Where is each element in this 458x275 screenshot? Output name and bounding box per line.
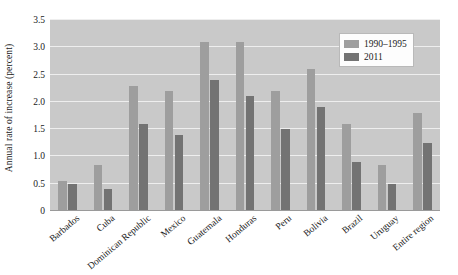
y-axis-tick-label: 2.0: [33, 97, 45, 107]
y-axis-tick-labels: 00.51.01.52.02.53.03.5: [18, 14, 48, 212]
legend: 1990–1995 2011: [339, 33, 414, 67]
bar-group: [413, 20, 432, 211]
bar: [165, 91, 174, 211]
legend-item-label: 1990–1995: [364, 39, 407, 49]
bar: [307, 69, 316, 211]
x-axis-tick-label: Cuba: [95, 213, 117, 234]
bar: [200, 42, 209, 211]
bar-group: [271, 20, 290, 211]
bar: [104, 189, 113, 211]
legend-swatch-icon: [344, 40, 359, 48]
bar: [236, 42, 245, 211]
bar-group: [94, 20, 113, 211]
bar: [129, 86, 138, 212]
y-axis-tick-label: 0.5: [33, 179, 45, 189]
y-axis-tick-label: 0: [40, 206, 45, 216]
bar-chart: Annual rate of increase (percent) 00.51.…: [0, 0, 458, 275]
x-axis-tick-label: Mexico: [159, 213, 188, 239]
bar-group: [58, 20, 77, 211]
y-axis-tick-label: 1.0: [33, 151, 45, 161]
bar: [423, 143, 432, 211]
y-axis-tick-label: 1.5: [33, 124, 45, 134]
bar: [378, 165, 387, 211]
legend-swatch-icon: [344, 53, 359, 61]
x-axis-tick-label: Uruguay: [368, 213, 400, 242]
x-axis-tick-labels: BarbadosCubaDominican RepublicMexicoGuat…: [50, 211, 440, 275]
x-axis-tick-label: Brazil: [341, 213, 365, 236]
bar: [68, 184, 77, 211]
legend-item: 1990–1995: [344, 37, 407, 50]
legend-item: 2011: [344, 50, 407, 63]
bar-group: [236, 20, 255, 211]
bar: [175, 135, 184, 211]
bar: [281, 129, 290, 211]
bar: [342, 124, 351, 211]
bar: [139, 124, 148, 211]
x-axis-tick-label: Guatemala: [185, 213, 223, 247]
bar: [246, 96, 255, 211]
bar-group: [307, 20, 326, 211]
bar: [210, 80, 219, 211]
x-axis-tick-label: Honduras: [224, 213, 259, 244]
bar-group: [129, 20, 148, 211]
bar: [58, 181, 67, 211]
legend-item-label: 2011: [364, 52, 383, 62]
x-axis-tick-label: Barbados: [47, 213, 81, 244]
x-axis-tick-label: Peru: [274, 213, 294, 232]
bar-group: [165, 20, 184, 211]
y-axis-tick-label: 3.0: [33, 42, 45, 52]
y-axis-title: Annual rate of increase (percent): [0, 0, 18, 215]
y-axis-title-text: Annual rate of increase (percent): [4, 43, 14, 171]
x-axis-tick-label: Bolivia: [301, 213, 329, 239]
x-axis-tick-label: Dominican Republic: [85, 213, 152, 271]
bar: [317, 107, 326, 211]
y-axis-tick-label: 3.5: [33, 15, 45, 25]
bar: [271, 91, 280, 211]
y-axis-tick-label: 2.5: [33, 70, 45, 80]
bar-group: [200, 20, 219, 211]
bar: [352, 162, 361, 211]
bar: [94, 165, 103, 211]
bar: [388, 184, 397, 211]
bar: [413, 113, 422, 211]
